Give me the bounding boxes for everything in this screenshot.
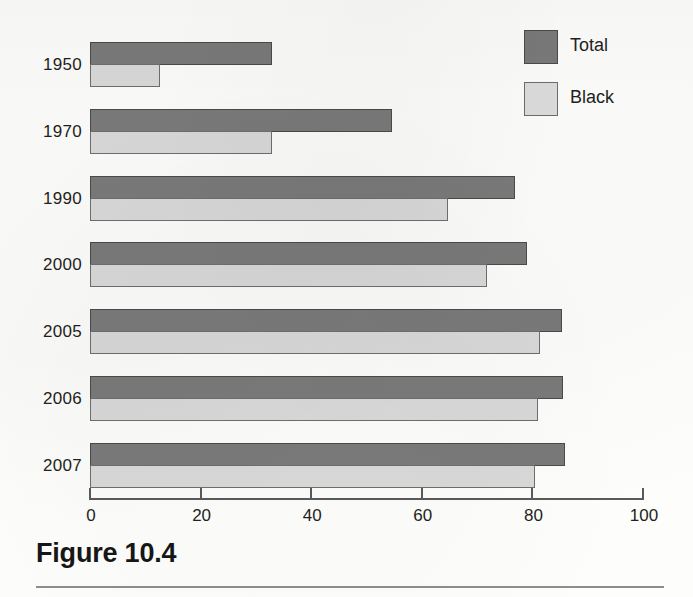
bar-group: 2007 (0, 443, 693, 489)
x-axis-tick-label: 60 (393, 506, 453, 526)
legend-swatch-total (524, 30, 558, 64)
bar-total-1950 (90, 42, 272, 65)
bar-total-2000 (90, 242, 527, 265)
bar-black-2005 (90, 331, 540, 354)
x-axis-tick (642, 488, 644, 500)
caption-divider (36, 586, 664, 588)
x-axis-line (90, 498, 643, 500)
x-axis-tick (531, 488, 533, 500)
category-label: 1950 (24, 55, 82, 75)
bar-total-1970 (90, 109, 392, 132)
category-label: 2007 (24, 456, 82, 476)
chart-legend: TotalBlack (524, 30, 684, 122)
bar-black-1970 (90, 131, 272, 154)
x-axis: 020406080100 (0, 486, 693, 546)
x-axis-tick-label: 40 (282, 506, 342, 526)
x-axis-tick (89, 488, 91, 500)
category-label: 2005 (24, 322, 82, 342)
bar-total-1990 (90, 176, 515, 199)
x-axis-tick-label: 0 (61, 506, 121, 526)
category-label: 2000 (24, 255, 82, 275)
category-label: 1990 (24, 189, 82, 209)
category-label: 1970 (24, 122, 82, 142)
bar-group: 1990 (0, 176, 693, 222)
bar-black-1950 (90, 64, 160, 87)
bar-group: 2000 (0, 242, 693, 288)
bar-total-2007 (90, 443, 565, 466)
legend-label: Total (570, 35, 608, 56)
bar-black-2006 (90, 398, 538, 421)
x-axis-tick-label: 20 (172, 506, 232, 526)
bar-total-2006 (90, 376, 563, 399)
category-label: 2006 (24, 389, 82, 409)
x-axis-tick (200, 488, 202, 500)
x-axis-tick-label: 100 (614, 506, 674, 526)
bar-group: 2006 (0, 376, 693, 422)
x-axis-tick (310, 488, 312, 500)
x-axis-tick-label: 80 (503, 506, 563, 526)
bar-total-2005 (90, 309, 562, 332)
bar-black-2007 (90, 465, 535, 488)
x-axis-tick (421, 488, 423, 500)
bar-group: 2005 (0, 309, 693, 355)
figure-container: 1950197019902000200520062007 02040608010… (0, 0, 693, 597)
legend-swatch-black (524, 82, 558, 116)
bar-black-2000 (90, 264, 487, 287)
bar-black-1990 (90, 198, 448, 221)
figure-caption: Figure 10.4 (36, 538, 176, 569)
legend-label: Black (570, 87, 614, 108)
